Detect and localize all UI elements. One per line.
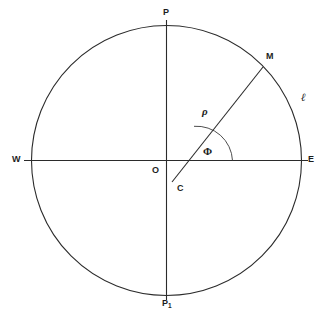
label-bottom-pole-subscript: 1 xyxy=(168,302,172,309)
circle-diagram-figure: P P1 W E M O C ℓ ρ Φ xyxy=(0,0,329,324)
label-west: W xyxy=(12,155,21,164)
diagram-canvas xyxy=(0,0,329,324)
label-bottom-pole: P1 xyxy=(162,299,172,308)
label-arc-length: ℓ xyxy=(301,92,306,103)
radius-vector-line xyxy=(172,67,263,182)
label-top-pole: P xyxy=(163,8,169,17)
label-angle-phi: Φ xyxy=(203,146,212,157)
label-origin: O xyxy=(152,166,159,175)
label-point-m: M xyxy=(266,52,274,61)
label-east: E xyxy=(308,155,314,164)
label-point-c: C xyxy=(177,184,184,193)
label-radius-vector: ρ xyxy=(202,106,208,117)
angle-arc xyxy=(194,126,233,160)
